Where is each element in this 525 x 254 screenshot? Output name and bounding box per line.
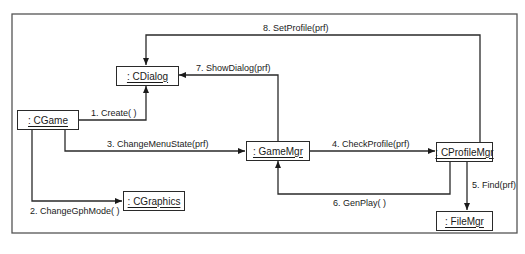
message-6-label: 6. GenPlay( )	[333, 198, 386, 208]
message-2-label: 2. ChangeGphMode( )	[30, 206, 120, 216]
collaboration-diagram: : CDialog : CGame : GameMgr : CGraphics …	[0, 0, 525, 254]
object-filemgr[interactable]: : FileMgr	[436, 211, 493, 231]
object-cprofilemgr[interactable]: : CProfileMgr	[436, 142, 493, 162]
message-8-arrow	[146, 35, 480, 142]
message-6-arrow	[278, 161, 450, 194]
object-gamemgr[interactable]: : GameMgr	[246, 141, 310, 161]
message-4-label: 4. CheckProfile(prf)	[332, 139, 410, 149]
message-5-label: 5. Find(prf)	[472, 180, 516, 190]
message-7-label: 7. ShowDialog(prf)	[196, 63, 271, 73]
message-3-label: 3. ChangeMenuState(prf)	[107, 139, 209, 149]
message-8-label: 8. SetProfile(prf)	[263, 23, 329, 33]
message-7-arrow	[179, 75, 278, 141]
object-label: : CProfileMgr	[435, 147, 493, 158]
object-label: : CGraphics	[128, 196, 181, 207]
object-cgame[interactable]: : CGame	[17, 110, 79, 130]
diagram-frame	[12, 14, 517, 233]
object-label: : CGame	[28, 115, 68, 126]
object-cdialog[interactable]: : CDialog	[116, 66, 179, 86]
object-cgraphics[interactable]: : CGraphics	[123, 191, 185, 211]
object-label: : FileMgr	[445, 216, 484, 227]
message-1-label: 1. Create( )	[91, 108, 137, 118]
object-label: : GameMgr	[253, 146, 303, 157]
object-label: : CDialog	[127, 71, 168, 82]
